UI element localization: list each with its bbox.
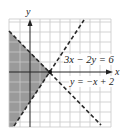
x-axis-label: x <box>114 66 120 77</box>
x-axis-arrow-icon <box>106 70 113 75</box>
intersection-point <box>48 70 52 74</box>
y-axis-label: y <box>25 6 31 17</box>
y-axis-arrow-icon <box>28 19 33 26</box>
equation-label-1: 3x − 2y = 6 <box>63 54 114 65</box>
graph: 3x − 2y = 6 y = −x + 2 x y <box>0 0 128 131</box>
equation-label-2: y = −x + 2 <box>69 76 114 87</box>
